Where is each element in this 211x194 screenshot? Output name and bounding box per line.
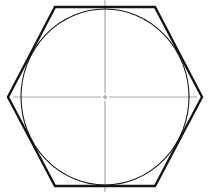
figure-canvas: Hexagon with inscribed circle Technical … [0,0,211,194]
hexagon-circle-drawing: Hexagon with inscribed circle Technical … [0,0,211,194]
